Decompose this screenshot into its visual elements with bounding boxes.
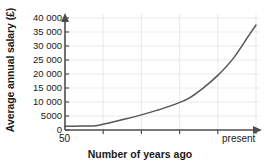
horizontal-gridlines bbox=[65, 18, 260, 116]
x-axis-title: Number of years ago bbox=[55, 148, 225, 160]
salary-curve bbox=[65, 25, 256, 126]
x-axis-label-end: present bbox=[222, 134, 255, 144]
salary-line-chart: Average annual salary (£) 0500010 00015 … bbox=[0, 0, 271, 165]
x-axis-label-start: 50 bbox=[59, 134, 70, 144]
vertical-gridlines bbox=[103, 14, 256, 130]
